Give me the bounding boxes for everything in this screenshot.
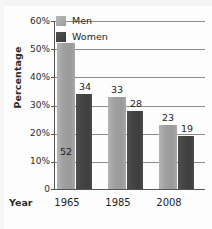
x-tick-1965: 1965	[42, 197, 92, 208]
legend-swatch-women-icon	[56, 32, 66, 42]
legend: Men Women	[56, 13, 108, 45]
legend-item-men: Men	[56, 13, 108, 29]
bar-women-1985	[127, 111, 143, 190]
y-axis-line	[54, 21, 55, 190]
bar-label-men-1965: 52	[51, 147, 81, 157]
y-tick-40: 40%	[20, 73, 50, 82]
y-tick-60: 60%	[20, 17, 50, 26]
bar-women-2008	[178, 136, 194, 190]
gridline-50	[54, 49, 205, 50]
legend-swatch-men-icon	[56, 16, 66, 26]
y-tick-50: 50%	[20, 45, 50, 54]
bar-men-2008	[159, 125, 177, 190]
legend-label-men: Men	[72, 16, 92, 26]
legend-label-women: Women	[72, 32, 108, 42]
bar-women-1965	[76, 94, 92, 190]
y-axis-ticks: 60% 50% 40% 30% 20% 10% 0	[18, 0, 50, 229]
scan-artifact-left	[0, 0, 4, 229]
bar-label-women-1965: 34	[70, 82, 100, 92]
y-tick-0: 0	[20, 185, 50, 194]
bar-men-1965	[57, 43, 75, 190]
plot-area: 52 34 33 28 23 19	[54, 21, 205, 190]
bar-label-men-1985: 33	[102, 85, 132, 95]
y-tick-30: 30%	[20, 101, 50, 110]
bar-label-women-2008: 19	[172, 124, 202, 134]
y-tick-10: 10%	[20, 157, 50, 166]
bar-men-1985	[108, 97, 126, 190]
bar-label-men-2008: 23	[153, 113, 183, 123]
gridline-40	[54, 77, 205, 78]
bar-chart: Percentage 60% 50% 40% 30% 20% 10% 0 52 …	[0, 0, 212, 229]
legend-item-women: Women	[56, 29, 108, 45]
x-tick-1985: 1985	[93, 197, 143, 208]
y-tick-20: 20%	[20, 129, 50, 138]
bar-label-women-1985: 28	[121, 99, 151, 109]
x-tick-2008: 2008	[144, 197, 194, 208]
x-axis-line	[54, 189, 205, 190]
x-axis-title: Year	[9, 197, 33, 208]
